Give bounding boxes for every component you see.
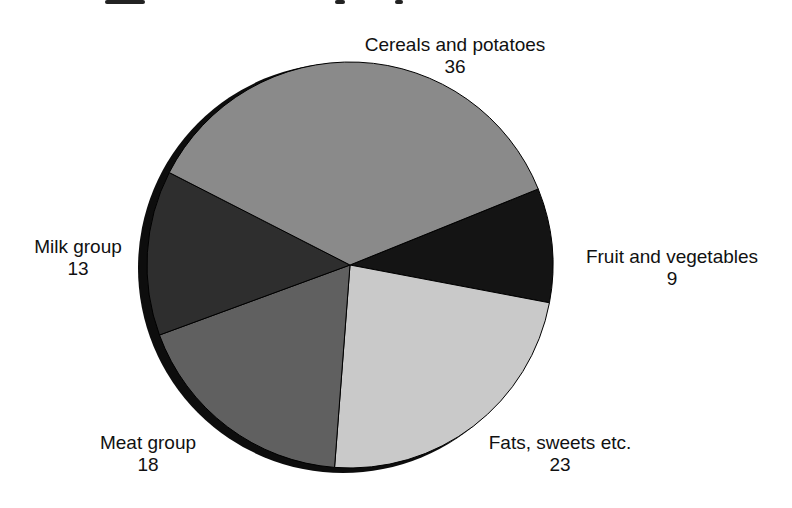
label-cereals: Cereals and potatoes 36 bbox=[355, 34, 555, 78]
label-fruit: Fruit and vegetables 9 bbox=[562, 246, 782, 290]
pie-slices bbox=[147, 62, 553, 468]
label-fats: Fats, sweets etc. 23 bbox=[470, 432, 650, 476]
label-milk: Milk group 13 bbox=[18, 236, 138, 280]
label-meat: Meat group 18 bbox=[78, 432, 218, 476]
